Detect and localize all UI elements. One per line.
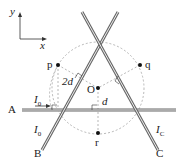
point-r-label: r — [95, 137, 99, 148]
y-axis-label: y — [10, 6, 15, 17]
point-O-label: O — [87, 84, 95, 95]
x-axis-label: x — [40, 40, 45, 51]
wire-B-label: B — [34, 148, 41, 159]
point-p-label: p — [47, 59, 53, 70]
wire-B — [42, 12, 118, 150]
current-C-label: IC — [156, 124, 164, 138]
wire-C — [82, 12, 158, 150]
wire-C-label: C — [156, 148, 163, 159]
distance-d-label: d — [102, 96, 108, 107]
point-q-label: q — [145, 59, 151, 70]
distance-2d-label: 2d — [62, 76, 73, 87]
current-B-label: I0 — [34, 124, 41, 138]
wire-A-label: A — [8, 104, 16, 115]
current-A-label: I0 — [34, 94, 41, 108]
diagram-canvas — [0, 0, 184, 163]
axes — [18, 12, 47, 41]
